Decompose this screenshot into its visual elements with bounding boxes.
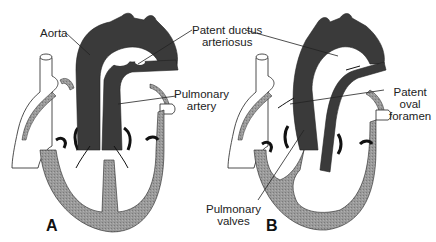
label-patent-oval-foramen: Patent oval foramen [389,86,431,122]
label-line: foramen [389,110,431,122]
label-line: Patent ductus [192,24,262,36]
label-pulmonary-artery: Pulmonary artery [174,88,229,112]
label-line: valves [206,215,261,227]
label-aorta: Aorta [40,27,68,39]
label-line: arteriosus [192,36,262,48]
panel-label-a: A [46,217,58,235]
heart-a [12,13,178,232]
label-patent-ductus-arteriosus: Patent ductus arteriosus [192,24,262,48]
label-line: Patent [389,86,431,98]
panel-label-b: B [266,217,278,235]
ventricle-wall-a [40,110,164,232]
label-pulmonary-valves: Pulmonary valves [206,203,261,227]
label-line: Pulmonary [174,88,229,100]
label-line: Pulmonary [206,203,261,215]
label-line: oval [389,98,431,110]
label-line: artery [174,100,229,112]
